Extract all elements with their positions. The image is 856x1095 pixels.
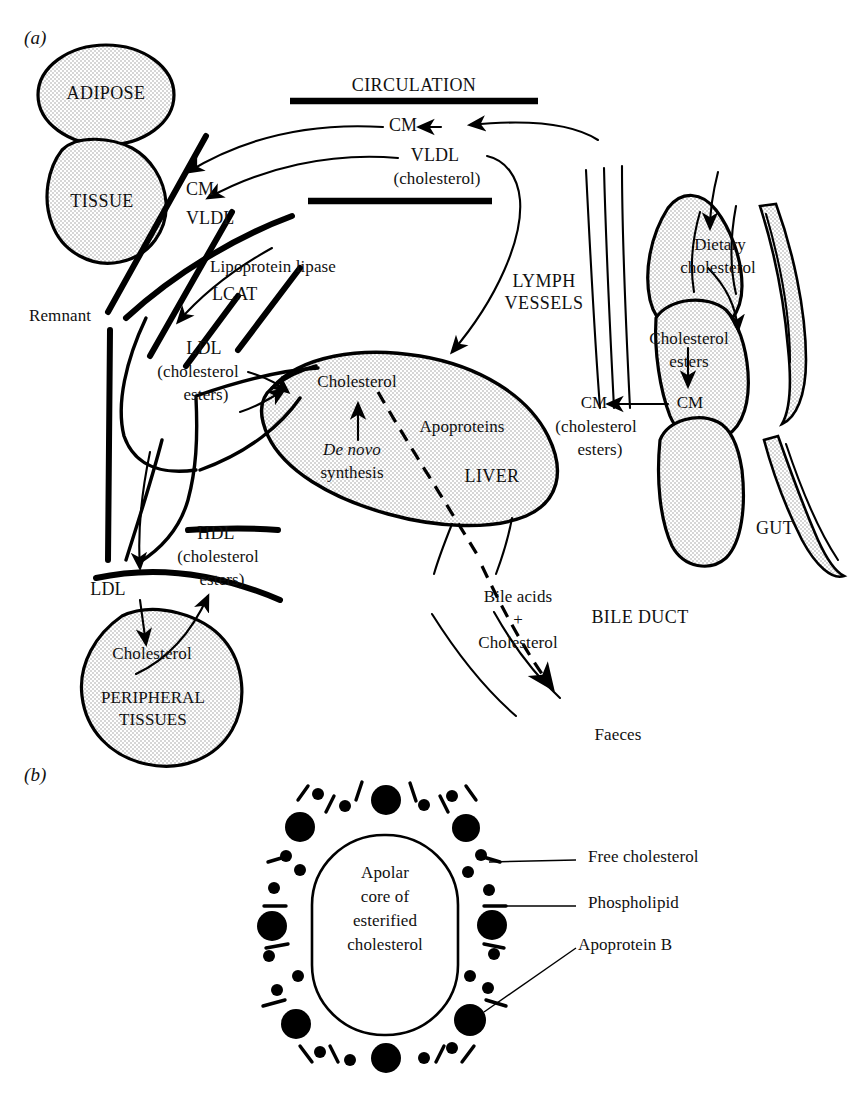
label-dietary-1: Dietary <box>694 236 746 254</box>
label-ldl-upper-sub2: esters) <box>183 386 228 404</box>
label-plus: + <box>513 611 523 629</box>
label-vldl-cholesterol: (cholesterol) <box>393 170 480 188</box>
label-vldl-left: VLDL <box>186 209 234 228</box>
label-lymph-1: LYMPH <box>512 272 575 291</box>
label-ldl-upper: LDL <box>186 339 221 358</box>
label-tissue: TISSUE <box>70 192 133 211</box>
liver-organ <box>262 352 558 525</box>
label-liver: LIVER <box>465 467 520 486</box>
label-cm-gut-sub2: esters) <box>577 441 622 459</box>
label-vldl-circulation: VLDL <box>411 146 459 165</box>
label-lymph-2: VESSELS <box>505 294 584 313</box>
label-core-3: esterified <box>353 912 417 930</box>
label-faeces: Faeces <box>595 726 642 744</box>
label-core-2: core of <box>361 888 409 906</box>
label-peripheral-tissues-1: PERIPHERAL <box>101 689 205 707</box>
bile-duct-lines <box>432 518 560 716</box>
label-adipose: ADIPOSE <box>67 84 146 103</box>
label-cholesterol-esters-1: Cholesterol <box>649 330 728 348</box>
label-remnant: Remnant <box>29 307 91 325</box>
figure-canvas: (a) (b) ADIPOSE TISSUE CIRCULATION CM VL… <box>0 0 856 1095</box>
label-bile-duct: BILE DUCT <box>591 608 688 627</box>
legend-phospholipid: Phospholipid <box>588 894 679 912</box>
label-cm-gut-inner: CM <box>677 394 704 412</box>
label-cm-circulation: CM <box>389 116 417 135</box>
panel-b-tag: (b) <box>24 765 46 785</box>
ldl-to-peripheral-arrow <box>139 452 150 568</box>
label-dietary-2: cholesterol <box>680 259 756 277</box>
label-apoproteins: Apoproteins <box>419 418 504 436</box>
label-cholesterol-esters-2: esters <box>669 353 708 371</box>
label-hdl-sub1: (cholesterol <box>177 548 258 566</box>
label-ldl-upper-sub1: (cholesterol <box>157 363 238 381</box>
legend-apoprotein-b: Apoprotein B <box>578 936 672 954</box>
label-de-novo: De novo <box>323 441 381 459</box>
label-hdl-sub2: esters) <box>199 571 244 589</box>
label-core-1: Apolar <box>361 864 409 882</box>
label-cm-gut-outer: CM <box>581 394 608 412</box>
label-lipoprotein-lipase: Lipoprotein lipase <box>210 258 336 276</box>
label-liver-cholesterol: Cholesterol <box>317 373 396 391</box>
panel-a-tag: (a) <box>24 28 46 48</box>
label-cm-left: CM <box>186 180 214 199</box>
legend-free-cholesterol: Free cholesterol <box>588 848 699 866</box>
label-peripheral-cholesterol: Cholesterol <box>112 645 191 663</box>
label-gut: GUT <box>756 519 794 538</box>
label-circulation: CIRCULATION <box>352 76 476 95</box>
label-cm-gut-sub1: (cholesterol <box>555 418 636 436</box>
label-bile-cholesterol: Cholesterol <box>478 634 557 652</box>
label-core-4: cholesterol <box>347 936 423 954</box>
label-peripheral-tissues-2: TISSUES <box>119 711 187 729</box>
label-ldl-lower: LDL <box>90 580 125 599</box>
label-lcat: LCAT <box>212 285 257 304</box>
lymph-vessel-lines <box>586 166 630 408</box>
label-synthesis: synthesis <box>320 464 383 482</box>
label-hdl: HDL <box>197 524 234 543</box>
label-bile-acids: Bile acids <box>484 588 553 606</box>
